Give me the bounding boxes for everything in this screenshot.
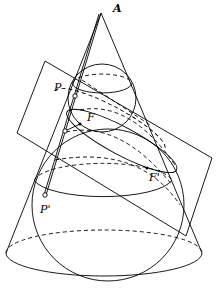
lower-sphere — [32, 129, 184, 281]
label-P-prime: P' — [40, 204, 50, 215]
cone-base-front — [6, 253, 202, 276]
cone-right-edge — [101, 13, 202, 253]
cone-left-edge — [6, 13, 101, 253]
focus-F — [79, 123, 82, 126]
generator-line-2 — [44, 14, 99, 195]
point-P — [73, 94, 77, 98]
point-P-prime — [43, 193, 47, 197]
dandelin-diagram — [0, 0, 218, 289]
point-mid — [63, 129, 67, 133]
label-A: A — [113, 3, 122, 14]
label-F-prime: F' — [149, 172, 160, 183]
section-ellipse-front — [60, 99, 183, 182]
cone-base-back — [6, 230, 202, 253]
label-F: F — [87, 112, 95, 123]
focus-F-prime — [146, 167, 149, 170]
label-P: P — [54, 82, 61, 93]
upper-sphere-contact-front — [73, 82, 131, 93]
